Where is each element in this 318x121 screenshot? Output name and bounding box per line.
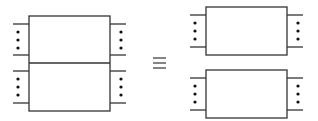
equivalence-symbol bbox=[153, 58, 166, 68]
bottom-block bbox=[206, 70, 287, 118]
top-block bbox=[206, 7, 287, 55]
tensor-equivalence-diagram bbox=[0, 0, 318, 121]
